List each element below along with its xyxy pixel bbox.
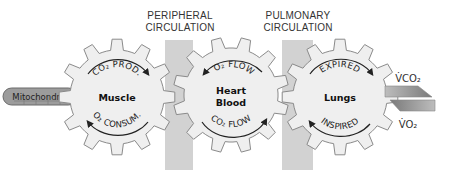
diagram-canvas: Mitochondria CO₂ PROD. Muscle O₂ CONSUM.… (0, 0, 449, 178)
lungs-label: Lungs (324, 92, 356, 103)
vco2-out-arrow (385, 86, 432, 97)
vo2-in-arrow (390, 100, 435, 111)
vo2-label: V̇O₂ (399, 118, 418, 130)
vco2-label: V̇CO₂ (395, 72, 421, 84)
gas-exchange-gear-diagram: PERIPHERAL CIRCULATION PULMONARY CIRCULA… (0, 0, 449, 178)
heart-label: Heart (216, 85, 246, 96)
blood-label: Blood (216, 97, 246, 108)
muscle-label: Muscle (98, 92, 135, 103)
